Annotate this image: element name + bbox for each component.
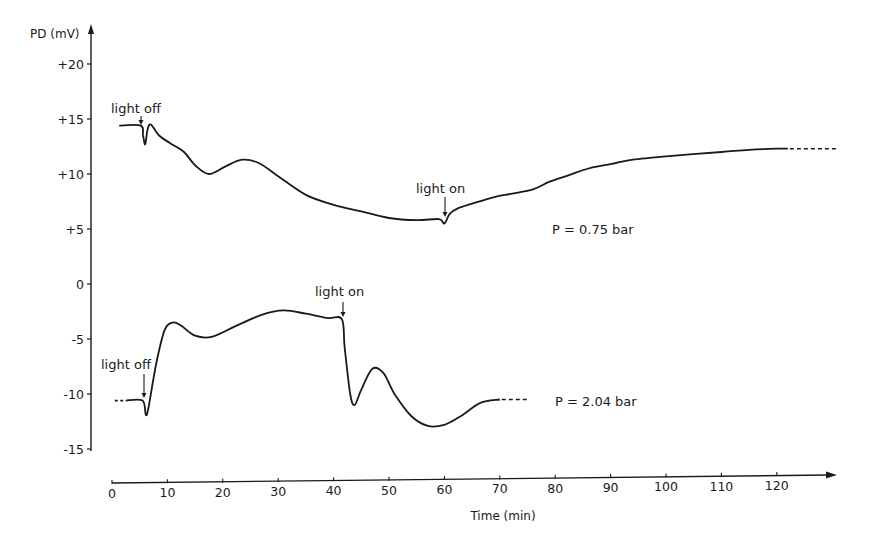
x-tick-label: 80 [547,481,563,496]
series-line-2 [126,310,500,426]
axes: PD (mV)+20+15+10+50-5-10-150102030405060… [30,24,837,523]
annotations: light offlight onlight offlight onP = 0.… [101,101,637,409]
series-group [115,124,838,426]
y-tick-label: +5 [66,222,84,237]
x-axis-arrow-icon [826,472,837,479]
x-tick-label: 10 [159,485,175,500]
annotation-light-off-upper: light off [111,101,162,116]
y-tick-label: -5 [72,332,84,347]
y-tick-label: -10 [64,387,84,402]
y-tick-label: 0 [76,277,84,292]
annotation-light-on-upper: light on [416,181,465,196]
down-arrow-icon [443,212,448,217]
series-label-0-75-bar: P = 0.75 bar [552,222,634,237]
x-tick-label: 100 [654,479,678,494]
series-label-2-04-bar: P = 2.04 bar [555,394,637,409]
x-tick-label: 20 [215,485,231,500]
y-tick-label: +10 [58,167,84,182]
x-tick-label: 60 [436,482,452,497]
x-tick-label: 70 [492,481,508,496]
x-tick-label: 40 [326,483,342,498]
x-tick-label: 0 [108,486,116,501]
y-tick-label: +20 [58,57,84,72]
y-tick-label: -15 [64,442,84,457]
x-tick-label: 50 [381,483,397,498]
series-line-1 [119,124,788,223]
x-tick-label: 30 [270,484,286,499]
down-arrow-icon [139,120,144,125]
y-tick-label: +15 [58,112,84,127]
x-axis-label: Time (min) [469,509,535,523]
pd-time-chart: PD (mV)+20+15+10+50-5-10-150102030405060… [0,0,869,547]
annotation-light-on-lower: light on [315,284,364,299]
x-tick-label: 110 [709,479,733,494]
y-axis-label: PD (mV) [30,27,80,41]
down-arrow-icon [142,393,147,398]
x-tick-label: 90 [603,480,619,495]
x-tick-label: 120 [765,478,789,493]
down-arrow-icon [341,312,346,317]
annotation-light-off-lower: light off [101,357,152,372]
y-axis-arrow-icon [88,24,94,34]
